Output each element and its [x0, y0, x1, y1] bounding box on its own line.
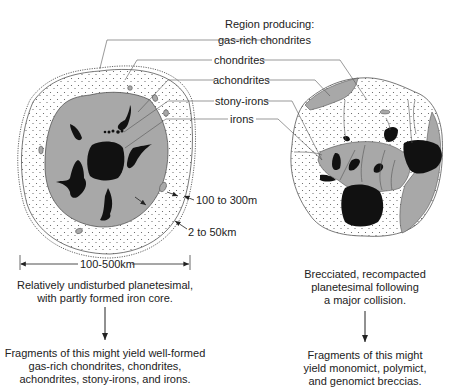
legend-achondrites: achondrites: [213, 74, 270, 87]
dim-crust-label: 2 to 50km: [188, 226, 236, 239]
legend-chondrites: chondrites: [214, 54, 265, 67]
legend-irons: irons: [230, 113, 254, 126]
left-result: Fragments of this might yield well-forme…: [0, 347, 210, 386]
right-result: Fragments of this might yield monomict, …: [290, 349, 440, 388]
legend-gas-rich-chondrites: gas-rich chondrites: [218, 34, 311, 47]
legend-header: Region producing:: [225, 18, 314, 31]
achondrite-fleck: [380, 110, 390, 114]
dim-diameter-label: 100-500km: [80, 258, 135, 271]
iron-core: [87, 142, 124, 181]
left-caption: Relatively undisturbed planetesimal, wit…: [10, 279, 200, 305]
right-caption: Brecciated, recompacted planetesimal fol…: [290, 268, 440, 307]
iron-clast: [341, 185, 383, 227]
legend-stony-irons: stony-irons: [215, 95, 269, 108]
dim-inclusion-label: 100 to 300m: [196, 194, 257, 207]
